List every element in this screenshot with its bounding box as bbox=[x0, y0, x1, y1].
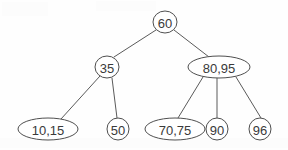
tree-edge-n35-n50 bbox=[112, 78, 117, 118]
tree-node-70-75[interactable]: 70,75 bbox=[145, 118, 205, 140]
tree-node-10-15[interactable]: 10,15 bbox=[18, 118, 78, 140]
node-label: 80,95 bbox=[203, 61, 236, 76]
tree-node-50[interactable]: 50 bbox=[107, 118, 129, 140]
node-label: 10,15 bbox=[32, 123, 65, 138]
tree-node-96[interactable]: 96 bbox=[249, 118, 271, 140]
node-layer: 603580,9510,155070,759096 bbox=[18, 11, 271, 140]
tree-edge-n60-n8095 bbox=[174, 30, 209, 57]
tree-graphic: 603580,9510,155070,759096 bbox=[0, 0, 288, 150]
node-label: 35 bbox=[100, 61, 114, 76]
tree-node-90[interactable]: 90 bbox=[206, 118, 228, 140]
node-label: 96 bbox=[253, 123, 267, 138]
tree-edge-n8095-n96 bbox=[236, 77, 261, 118]
tree-edge-n60-n35 bbox=[114, 30, 156, 57]
node-label: 90 bbox=[210, 123, 224, 138]
node-label: 50 bbox=[111, 123, 125, 138]
tree-edge-n35-n1015 bbox=[61, 76, 100, 119]
tree-node-80-95[interactable]: 80,95 bbox=[188, 56, 250, 78]
tree-node-35[interactable]: 35 bbox=[95, 56, 119, 78]
tree-edge-n8095-n7075 bbox=[178, 77, 203, 118]
tree-diagram-canvas: 603580,9510,155070,759096 bbox=[0, 0, 288, 150]
node-label: 70,75 bbox=[159, 123, 192, 138]
tree-node-60[interactable]: 60 bbox=[153, 11, 177, 33]
node-label: 60 bbox=[158, 16, 172, 31]
